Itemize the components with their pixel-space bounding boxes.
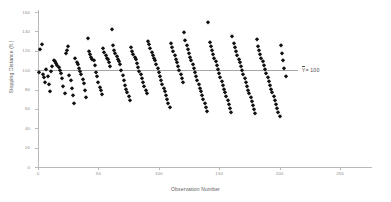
data-point (95, 74, 99, 78)
data-point (111, 43, 115, 47)
data-point (71, 93, 75, 97)
x-axis-line (38, 167, 372, 168)
x-tick (219, 167, 220, 170)
data-point (145, 92, 149, 96)
data-point (206, 20, 210, 24)
data-point (83, 88, 87, 92)
data-point (46, 74, 50, 78)
x-tick-label: 100 (147, 171, 171, 176)
scatter-chart: 020406080100120140160 050100150200250 St… (0, 0, 391, 202)
data-point (187, 51, 191, 55)
data-point (255, 37, 259, 41)
data-point (128, 98, 132, 102)
data-point (257, 48, 261, 52)
mean-annotation-value: = 100 (305, 67, 319, 73)
y-tick-label: 120 (0, 48, 30, 53)
data-point (186, 47, 190, 51)
data-point (70, 86, 74, 90)
data-point (118, 62, 122, 66)
data-point (181, 80, 185, 84)
data-point (93, 63, 97, 67)
data-point (180, 76, 184, 80)
data-point (72, 101, 76, 105)
data-point (48, 90, 52, 94)
y-bar-symbol: Y (302, 66, 306, 74)
data-point (267, 79, 271, 83)
data-point (211, 52, 215, 56)
y-tick-label: 160 (0, 10, 30, 15)
x-tick (38, 167, 39, 170)
y-tick-label: 20 (0, 145, 30, 150)
data-point (63, 92, 67, 96)
y-tick-label: 60 (0, 106, 30, 111)
x-tick-label: 250 (328, 171, 352, 176)
data-point (59, 71, 63, 75)
x-tick-label: 150 (207, 171, 231, 176)
data-point (82, 81, 86, 85)
data-point (68, 73, 72, 77)
x-axis-title: Observation Number (0, 186, 391, 192)
data-point (254, 111, 258, 115)
data-point (234, 49, 238, 53)
data-point (86, 36, 90, 40)
data-point (110, 28, 114, 32)
data-point (205, 109, 209, 113)
data-point (84, 95, 88, 99)
y-axis-title: Stopping Distance (ft.) (8, 12, 14, 122)
data-point (210, 48, 214, 52)
data-point (245, 84, 249, 88)
data-point (97, 80, 101, 84)
data-point (123, 83, 127, 87)
data-point (221, 83, 225, 87)
data-point (47, 82, 51, 86)
data-point (233, 45, 237, 49)
x-tick-label: 50 (86, 171, 110, 176)
data-point (169, 41, 173, 45)
data-point (92, 59, 96, 63)
data-point (81, 77, 85, 81)
y-tick-label: 140 (0, 29, 30, 34)
data-point (278, 114, 282, 118)
y-tick-label: 100 (0, 68, 30, 73)
x-tick-label: 200 (268, 171, 292, 176)
data-point (279, 43, 283, 47)
x-tick (159, 167, 160, 170)
data-point (74, 56, 78, 60)
data-point (65, 48, 69, 52)
x-tick-label: 0 (26, 171, 50, 176)
data-point (256, 44, 260, 48)
data-point (244, 80, 248, 84)
data-point (229, 110, 233, 114)
x-tick (98, 167, 99, 170)
data-point (231, 34, 235, 38)
data-point (122, 78, 126, 82)
data-point (40, 42, 44, 46)
data-point (184, 38, 188, 42)
data-point (168, 105, 172, 109)
data-point (268, 83, 272, 87)
data-point (173, 53, 177, 57)
plot-area (38, 12, 340, 167)
data-point (120, 68, 124, 72)
mean-annotation-label: Y= 100 (302, 66, 320, 74)
data-point (109, 64, 113, 68)
y-tick-label: 40 (0, 126, 30, 131)
x-tick (340, 167, 341, 170)
data-point (182, 31, 186, 35)
data-point (62, 84, 66, 88)
data-point (100, 93, 104, 97)
data-point (60, 76, 64, 80)
data-point (141, 80, 145, 84)
data-point (280, 51, 284, 55)
data-point (204, 105, 208, 109)
data-point (39, 47, 43, 51)
data-point (121, 73, 125, 77)
data-point (140, 76, 144, 80)
data-point (66, 44, 70, 48)
data-point (80, 72, 84, 76)
x-tick (280, 167, 281, 170)
y-tick-label: 0 (0, 165, 30, 170)
data-point (51, 64, 55, 68)
data-point (197, 82, 201, 86)
data-point (281, 59, 285, 63)
